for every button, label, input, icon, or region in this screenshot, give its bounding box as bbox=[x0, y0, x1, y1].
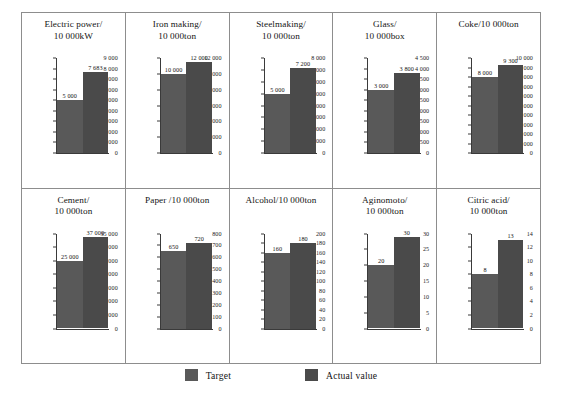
bar-target bbox=[57, 261, 83, 329]
y-axis-tick-label: 25 bbox=[423, 246, 429, 253]
x-axis-line bbox=[471, 153, 524, 154]
y-axis-tick-label: 4 bbox=[530, 298, 533, 305]
chart-title-line1: Aginomoto/ bbox=[362, 195, 407, 205]
y-axis-tick-label: 10 000 bbox=[516, 55, 533, 62]
y-axis-tick-label: 700 bbox=[212, 242, 221, 249]
chart-title-line2: 10 000ton bbox=[233, 31, 330, 43]
x-axis-line bbox=[264, 153, 317, 154]
chart-panel-aginomoto: Aginomoto/ 10 000ton 3025201510502030 bbox=[333, 189, 437, 365]
y-axis-tick-label: 200 bbox=[212, 301, 221, 308]
bar-target bbox=[265, 94, 291, 153]
plot-area: 14121086420813 bbox=[441, 221, 537, 339]
bar-actual bbox=[498, 65, 524, 153]
bar-value-label: 160 bbox=[273, 245, 283, 252]
legend-item-actual-value: Actual value bbox=[305, 369, 377, 381]
bar-actual bbox=[394, 73, 420, 153]
plot-area: 35 00030 00025 00020 00015 00010 0005 00… bbox=[26, 221, 122, 339]
bar-target bbox=[472, 274, 498, 328]
y-axis-tick-label: 800 bbox=[212, 230, 221, 237]
bar-actual bbox=[186, 62, 212, 153]
y-axis-tick-label: 180 bbox=[316, 240, 325, 247]
chart-title-line2: 10 000ton bbox=[336, 206, 433, 218]
bar-value-label: 7 683 bbox=[88, 64, 102, 71]
x-axis-line bbox=[160, 153, 213, 154]
y-axis-tick-label: 0 bbox=[530, 150, 533, 157]
plot-area: 8 0007 0006 0005 0004 0003 0002 0001 000… bbox=[234, 45, 330, 163]
chart-panel-cement: Cement/ 10 000ton 35 00030 00025 00020 0… bbox=[22, 189, 126, 365]
plot-area: 3025201510502030 bbox=[337, 221, 433, 339]
y-axis-tick-label: 500 bbox=[212, 266, 221, 273]
chart-panel-alcohol: Alcohol/10 000ton 2001801601401201008060… bbox=[230, 189, 334, 365]
chart-legend: Target Actual value bbox=[0, 369, 562, 381]
y-axis-tick-label: 100 bbox=[316, 278, 325, 285]
bar-value-label: 8 000 bbox=[478, 69, 492, 76]
plot-area: 9 0008 0007 0006 0005 0004 0003 0002 000… bbox=[26, 45, 122, 163]
chart-panel-steelmaking: Steelmaking/ 10 000ton 8 0007 0006 0005 … bbox=[230, 13, 334, 189]
chart-title: Cement/ 10 000ton bbox=[25, 195, 122, 218]
chart-title-line1: Cement/ bbox=[57, 195, 89, 205]
bar-target bbox=[161, 74, 187, 153]
y-axis-tick-label: 60 bbox=[319, 297, 325, 304]
x-axis-line bbox=[367, 329, 420, 330]
bar-actual bbox=[290, 243, 316, 329]
bar-value-label: 7 200 bbox=[296, 60, 310, 67]
bar-target bbox=[161, 251, 187, 328]
y-axis-tick-label: 12 bbox=[527, 244, 533, 251]
y-axis-tick-label: 14 bbox=[527, 230, 533, 237]
chart-panel-citric-acid: Citric acid/ 10 000ton 14121086420813 bbox=[437, 189, 541, 365]
legend-swatch-target-icon bbox=[185, 369, 198, 381]
y-axis-tick-label: 0 bbox=[322, 325, 325, 332]
chart-title-line1: Electric power/ bbox=[44, 19, 102, 29]
x-axis-line bbox=[56, 329, 109, 330]
bar-value-label: 180 bbox=[298, 235, 308, 242]
y-axis-tick-label: 600 bbox=[212, 254, 221, 261]
bar-target bbox=[472, 77, 498, 153]
y-axis-tick-label: 500 bbox=[420, 139, 429, 146]
y-axis-tick-label: 40 bbox=[319, 306, 325, 313]
y-axis-tick-label: 9 000 bbox=[104, 55, 118, 62]
chart-title-line2: 10 000ton bbox=[25, 206, 122, 218]
bar-actual bbox=[394, 237, 420, 328]
chart-title: Aginomoto/ 10 000ton bbox=[336, 195, 433, 218]
bar-value-label: 720 bbox=[194, 235, 204, 242]
chart-panel-iron-making: Iron making/ 10 000ton 12 00010 0008 000… bbox=[126, 13, 230, 189]
chart-title-line2: 10 000kW bbox=[25, 31, 122, 43]
chart-title-line1: Glass/ bbox=[373, 19, 397, 29]
y-axis-tick-label: 300 bbox=[212, 289, 221, 296]
legend-label-target: Target bbox=[206, 370, 231, 381]
x-axis-line bbox=[264, 329, 317, 330]
bar-actual bbox=[83, 237, 109, 328]
bar-value-label: 3 000 bbox=[374, 82, 388, 89]
chart-title-line1: Alcohol/10 000ton bbox=[246, 195, 317, 205]
y-axis-tick-label: 400 bbox=[212, 278, 221, 285]
y-axis-tick-label: 0 bbox=[115, 325, 118, 332]
bar-value-label: 37 000 bbox=[87, 229, 105, 236]
chart-title: Alcohol/10 000ton bbox=[233, 195, 330, 218]
chart-title-line1: Steelmaking/ bbox=[256, 19, 306, 29]
bar-value-label: 9 300 bbox=[503, 57, 517, 64]
y-axis-tick-label: 0 bbox=[426, 325, 429, 332]
y-axis-tick-label: 0 bbox=[218, 150, 221, 157]
chart-title-line1: Coke/10 000ton bbox=[458, 19, 518, 29]
y-axis-tick-label: 140 bbox=[316, 259, 325, 266]
bar-value-label: 20 bbox=[378, 257, 384, 264]
y-axis-tick-label: 5 bbox=[426, 309, 429, 316]
chart-title-line2: 10 000ton bbox=[440, 206, 537, 218]
y-axis-tick-label: 15 bbox=[423, 278, 429, 285]
bar-value-label: 5 000 bbox=[63, 92, 77, 99]
y-axis-tick-label: 10 bbox=[527, 257, 533, 264]
bar-actual bbox=[290, 68, 316, 154]
chart-panel-coke: Coke/10 000ton 10 0009 0008 0007 0006 00… bbox=[437, 13, 541, 189]
y-axis-tick-label: 4 000 bbox=[415, 65, 429, 72]
plot-area: 200180160140120100806040200160180 bbox=[234, 221, 330, 339]
chart-title: Glass/ 10 000box bbox=[336, 19, 433, 42]
bar-target bbox=[265, 253, 291, 329]
y-axis-tick-label: 8 000 bbox=[311, 55, 325, 62]
y-axis-tick-label: 100 bbox=[212, 313, 221, 320]
bar-actual bbox=[498, 240, 524, 328]
y-axis-tick-label: 0 bbox=[218, 325, 221, 332]
x-axis-line bbox=[56, 153, 109, 154]
y-axis-tick-label: 0 bbox=[426, 150, 429, 157]
y-axis-tick-label: 0 bbox=[115, 150, 118, 157]
bar-value-label: 5 000 bbox=[270, 86, 284, 93]
